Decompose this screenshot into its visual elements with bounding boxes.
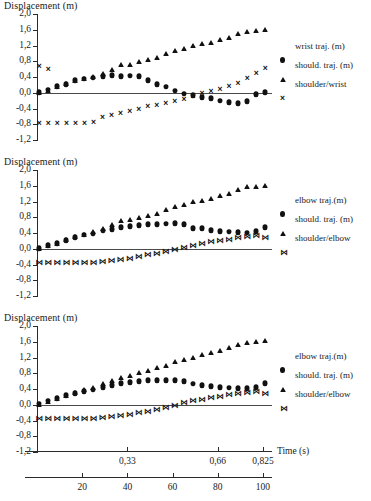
legend-marker: × <box>280 87 285 105</box>
marker-triangle <box>90 74 96 79</box>
marker-bowtie: ⋈ <box>198 396 206 404</box>
marker-cross: × <box>154 100 159 109</box>
marker-cross: × <box>218 85 223 94</box>
marker-bowtie: ⋈ <box>53 415 61 423</box>
legend-item: elbow traj.(m) <box>277 194 371 213</box>
marker-bowtie: ⋈ <box>144 251 152 259</box>
marker-cross: × <box>245 74 250 83</box>
marker-cross: × <box>181 95 186 104</box>
y-axis-tick <box>33 140 38 141</box>
marker-bowtie: ⋈ <box>80 259 88 267</box>
marker-triangle <box>127 373 133 378</box>
marker-circle <box>208 95 213 101</box>
marker-cross: × <box>163 99 168 108</box>
legend-item: elbow traj.(m) <box>277 350 371 369</box>
y-axis-tick-label: 0,0 <box>19 244 31 254</box>
y-axis-tick <box>33 373 38 374</box>
marker-cross: × <box>37 62 42 71</box>
y-axis-tick-label: 0,4 <box>19 384 31 394</box>
marker-cross: × <box>227 82 232 91</box>
marker-circle <box>181 378 186 384</box>
marker-circle <box>145 378 150 384</box>
marker-bowtie: ⋈ <box>117 412 125 420</box>
legend-item: should. traj. (m) <box>277 369 371 388</box>
marker-triangle <box>54 396 60 401</box>
marker-bowtie: ⋈ <box>99 258 107 266</box>
marker-circle <box>154 378 159 384</box>
marker-bowtie: ⋈ <box>62 259 70 267</box>
time-axis-line-seconds <box>25 451 272 452</box>
time-axis-label-seconds: 0,66 <box>209 456 226 466</box>
marker-triangle <box>154 55 160 60</box>
marker-bowtie: ⋈ <box>216 237 224 245</box>
marker-cross: × <box>82 118 87 127</box>
marker-cross: × <box>46 65 51 74</box>
legend-item: ⋈shoulder/elbow <box>277 388 371 407</box>
y-axis-title: Displacement (m) <box>4 156 78 167</box>
marker-circle <box>118 224 123 230</box>
marker-bowtie: ⋈ <box>162 404 170 412</box>
marker-circle <box>109 72 114 78</box>
marker-bowtie: ⋈ <box>171 402 179 410</box>
y-axis-tick-label: -1,2 <box>16 135 31 145</box>
legend-label: should. traj. (m) <box>295 370 353 380</box>
marker-cross: × <box>100 113 105 122</box>
y-axis-tick <box>33 217 38 218</box>
marker-triangle <box>181 357 187 362</box>
marker-triangle <box>100 381 106 386</box>
marker-triangle <box>63 237 69 242</box>
legend-label: should. traj. (m) <box>295 60 353 70</box>
marker-bowtie: ⋈ <box>180 399 188 407</box>
marker-circle <box>263 224 268 230</box>
marker-bowtie: ⋈ <box>108 257 116 265</box>
y-axis-tick-label: 1,6 <box>19 181 31 191</box>
marker-bowtie: ⋈ <box>198 240 206 248</box>
marker-triangle <box>244 184 250 189</box>
marker-cross: × <box>109 111 114 120</box>
chart-panel-2: Displacement (m) 2,01,61,20,80,40,0-0,4-… <box>0 156 371 312</box>
marker-circle <box>245 99 250 105</box>
marker-circle <box>145 77 150 83</box>
plot-area-2: 2,01,61,20,80,40,0-0,4-0,8-1,2⋈⋈⋈⋈⋈⋈⋈⋈⋈⋈… <box>37 170 272 296</box>
y-axis-tick <box>33 233 38 234</box>
marker-triangle <box>54 241 60 246</box>
y-axis-tick-label: 0,8 <box>19 57 31 67</box>
legend-label: elbow traj.(m) <box>295 351 346 361</box>
marker-bowtie: ⋈ <box>44 259 52 267</box>
y-axis-tick <box>33 77 38 78</box>
marker-bowtie: ⋈ <box>117 256 125 264</box>
marker-cross: × <box>236 78 241 87</box>
marker-circle <box>254 92 259 98</box>
marker-triangle <box>199 198 205 203</box>
marker-bowtie: ⋈ <box>153 250 161 258</box>
marker-bowtie: ⋈ <box>71 259 79 267</box>
marker-bowtie: ⋈ <box>162 248 170 256</box>
y-axis-tick-label: -0,8 <box>16 276 31 286</box>
marker-triangle <box>253 339 259 344</box>
marker-circle <box>263 89 268 95</box>
legend-label: shoulder/elbow <box>295 389 351 399</box>
marker-cross: × <box>127 107 132 116</box>
marker-circle <box>154 222 159 228</box>
marker-bowtie: ⋈ <box>180 244 188 252</box>
marker-bowtie: ⋈ <box>135 253 143 261</box>
legend-item: should. traj. (m) <box>277 213 371 232</box>
marker-bowtie: ⋈ <box>71 415 79 423</box>
marker-circle <box>190 381 195 387</box>
time-axis-tick-seconds <box>127 447 128 451</box>
y-axis-tick-label: 1,2 <box>19 197 31 207</box>
marker-circle <box>218 384 223 390</box>
marker-bowtie: ⋈ <box>89 259 97 267</box>
marker-triangle <box>145 368 151 373</box>
marker-bowtie: ⋈ <box>126 255 134 263</box>
legend-label: elbow traj.(m) <box>295 195 346 205</box>
marker-triangle <box>235 31 241 36</box>
y-axis-tick <box>33 326 38 327</box>
y-axis-tick <box>33 186 38 187</box>
time-axis-tick-frames <box>263 473 264 478</box>
y-axis-tick-label: -0,4 <box>16 104 31 114</box>
marker-triangle <box>127 217 133 222</box>
marker-bowtie: ⋈ <box>189 397 197 405</box>
marker-bowtie: ⋈ <box>280 405 288 413</box>
marker-bowtie: ⋈ <box>99 414 107 422</box>
